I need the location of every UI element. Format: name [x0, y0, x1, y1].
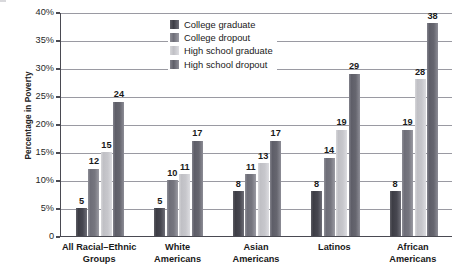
bar[interactable]: 10: [167, 180, 178, 236]
x-axis-label: AfricanAmericans: [362, 242, 456, 265]
bar-value-label: 28: [415, 67, 425, 77]
bar-value-label: 10: [167, 168, 177, 178]
bar-value-label: 13: [258, 151, 268, 161]
y-axis-tick-label: 0: [4, 231, 54, 241]
bar[interactable]: 8: [390, 191, 401, 236]
y-axis-tick-label: 5%: [4, 203, 54, 213]
bar-chart: Percentage in Poverty 40%35%30%25%20%15%…: [0, 0, 456, 274]
bar-group: 8192838: [375, 13, 453, 236]
bar-group: 5121524: [61, 13, 139, 236]
bar[interactable]: 8: [233, 191, 244, 236]
legend-swatch-icon: [170, 60, 179, 69]
bar-value-label: 8: [236, 179, 241, 189]
bar-value-label: 8: [314, 179, 319, 189]
bar-slot: 24: [113, 13, 124, 236]
legend-item[interactable]: High school dropout: [170, 59, 273, 70]
bar-value-label: 29: [349, 61, 359, 71]
legend-swatch-icon: [170, 46, 179, 55]
bar-slot: 19: [402, 13, 413, 236]
bar-slot: 29: [349, 13, 360, 236]
bar-slot: 8: [390, 13, 401, 236]
x-axis-label-line: Americans: [362, 254, 456, 266]
bar-slot: 12: [88, 13, 99, 236]
x-axis-label-line: African: [362, 242, 456, 254]
bar-value-label: 5: [157, 196, 162, 206]
bar-slot: 14: [324, 13, 335, 236]
bar-value-label: 8: [392, 179, 397, 189]
bar-slot: 38: [427, 13, 438, 236]
bar[interactable]: 17: [270, 141, 281, 236]
bar-value-label: 24: [114, 89, 124, 99]
bar-value-label: 11: [246, 162, 256, 172]
bar-value-label: 19: [337, 117, 347, 127]
bar[interactable]: 19: [402, 130, 413, 236]
bar[interactable]: 29: [349, 74, 360, 236]
legend-label: College graduate: [184, 19, 255, 30]
bar[interactable]: 11: [245, 174, 256, 236]
bar-slot: 15: [101, 13, 112, 236]
bar[interactable]: 38: [427, 23, 438, 236]
y-axis-tick-label: 25%: [4, 91, 54, 101]
bar-slot: 5: [76, 13, 87, 236]
bar-value-label: 11: [180, 162, 190, 172]
legend-label: High school graduate: [184, 45, 273, 56]
y-axis-tick-label: 40%: [4, 7, 54, 17]
bar-slot: 5: [154, 13, 165, 236]
legend-label: High school dropout: [184, 59, 267, 70]
bar-group: 8141929: [296, 13, 374, 236]
bar-value-label: 14: [324, 145, 334, 155]
x-axis-label-line: Americans: [205, 254, 307, 266]
bar-value-label: 5: [79, 196, 84, 206]
bar[interactable]: 8: [311, 191, 322, 236]
bar[interactable]: 13: [258, 163, 269, 236]
bar-value-label: 38: [427, 11, 437, 21]
y-axis-tick-label: 30%: [4, 63, 54, 73]
bar[interactable]: 12: [88, 169, 99, 236]
bar[interactable]: 17: [192, 141, 203, 236]
bar[interactable]: 11: [179, 174, 190, 236]
bar[interactable]: 15: [101, 152, 112, 236]
legend-label: College dropout: [184, 32, 250, 43]
bar-value-label: 19: [402, 117, 412, 127]
chart-legend: College graduateCollege dropoutHigh scho…: [168, 17, 277, 72]
legend-item[interactable]: College dropout: [170, 32, 273, 43]
bar-slot: 19: [336, 13, 347, 236]
scan-edge-artifact: [0, 0, 456, 2]
bar-value-label: 15: [101, 140, 111, 150]
bar-value-label: 17: [271, 128, 281, 138]
legend-swatch-icon: [170, 20, 179, 29]
bar[interactable]: 5: [76, 208, 87, 236]
bar[interactable]: 28: [415, 79, 426, 236]
bar[interactable]: 24: [113, 102, 124, 236]
y-axis-title: Percentage in Poverty: [24, 36, 33, 196]
y-axis-tick-label: 15%: [4, 147, 54, 157]
bar[interactable]: 14: [324, 158, 335, 236]
bar-value-label: 17: [192, 128, 202, 138]
legend-swatch-icon: [170, 33, 179, 42]
bar-value-label: 12: [89, 156, 99, 166]
bar-slot: 28: [415, 13, 426, 236]
y-axis-tick-label: 20%: [4, 119, 54, 129]
bar[interactable]: 19: [336, 130, 347, 236]
bar[interactable]: 5: [154, 208, 165, 236]
y-axis-tick-label: 35%: [4, 35, 54, 45]
legend-item[interactable]: College graduate: [170, 19, 273, 30]
bar-slot: 8: [311, 13, 322, 236]
y-axis-tick-label: 10%: [4, 175, 54, 185]
legend-item[interactable]: High school graduate: [170, 45, 273, 56]
